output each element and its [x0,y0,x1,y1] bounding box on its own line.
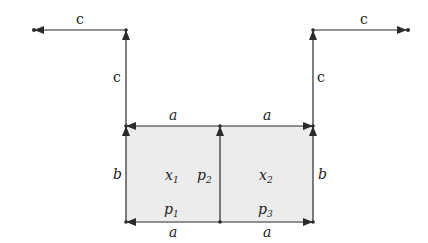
endpoint [406,28,410,32]
label-right-out-c: c [360,11,368,27]
label-left-out-c: c [76,11,84,27]
vertex [124,28,128,32]
endpoint [32,28,36,32]
vertex [218,124,222,128]
vertex [124,220,128,224]
label-right-up-c: c [317,69,325,85]
vertex [311,28,315,32]
vertex [311,220,315,224]
vertex [218,220,222,224]
label-top-left-a: a [169,107,177,123]
label-bottom-right-a: a [263,224,271,240]
label-left-up-c: c [113,69,121,85]
label-right-b: b [318,166,327,182]
vertex [124,124,128,128]
label-bottom-left-a: a [169,224,177,240]
vertex [311,124,315,128]
label-top-right-a: a [263,107,271,123]
cell-complex-diagram: c c c c a a a a b b x1 x2 p2 p1 p3 [0,0,428,243]
label-left-b: b [113,166,122,182]
